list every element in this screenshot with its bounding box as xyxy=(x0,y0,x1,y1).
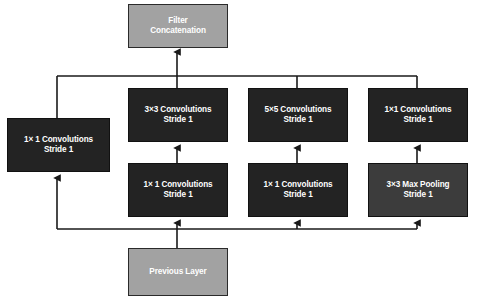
node-label-line2: Stride 1 xyxy=(403,190,432,200)
node-right-1x1-conv[interactable]: 1×1 Convolutions Stride 1 xyxy=(368,88,468,142)
node-label-line2: Stride 1 xyxy=(163,190,192,200)
node-label-line1: Previous Layer xyxy=(149,267,206,277)
node-label-line2: Stride 1 xyxy=(44,145,73,155)
node-label-line2: Stride 1 xyxy=(283,115,312,125)
node-label-line1: 3×3 Max Pooling xyxy=(387,180,450,190)
node-left-1x1-conv[interactable]: 1× 1 Convolutions Stride 1 xyxy=(7,118,110,172)
node-label-line1: 1×1 Convolutions xyxy=(385,105,452,115)
node-label-line1: 1× 1 Convolutions xyxy=(143,180,212,190)
node-label-line1: 3×3 Convolutions xyxy=(145,105,212,115)
node-1x1-reduce-a[interactable]: 1× 1 Convolutions Stride 1 xyxy=(128,163,228,217)
node-1x1-reduce-b[interactable]: 1× 1 Convolutions Stride 1 xyxy=(248,163,348,217)
node-3x3-conv[interactable]: 3×3 Convolutions Stride 1 xyxy=(128,88,228,142)
node-5x5-conv[interactable]: 5×5 Convolutions Stride 1 xyxy=(248,88,348,142)
node-label-line1: 1× 1 Convolutions xyxy=(263,180,332,190)
node-filter-concatenation[interactable]: Filter Concatenation xyxy=(128,4,228,48)
node-label-line2: Stride 1 xyxy=(403,115,432,125)
node-label-line1: Filter xyxy=(168,16,187,26)
diagram-canvas: Filter Concatenation 1× 1 Convolutions S… xyxy=(0,0,479,303)
node-previous-layer[interactable]: Previous Layer xyxy=(128,248,228,296)
node-label-line1: 1× 1 Convolutions xyxy=(24,135,93,145)
node-label-line2: Stride 1 xyxy=(163,115,192,125)
node-label-line2: Concatenation xyxy=(150,26,206,36)
node-label-line1: 5×5 Convolutions xyxy=(265,105,332,115)
node-label-line2: Stride 1 xyxy=(283,190,312,200)
node-3x3-max-pooling[interactable]: 3×3 Max Pooling Stride 1 xyxy=(368,163,468,217)
